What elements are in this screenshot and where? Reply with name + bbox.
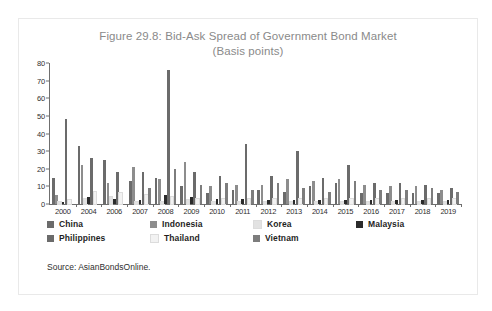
x-axis-tick-label: 2016	[358, 207, 384, 216]
year-group	[333, 63, 359, 204]
bar	[286, 179, 289, 204]
chart-legend: ChinaIndonesiaKoreaMalaysiaPhilippinesTh…	[47, 219, 459, 247]
legend-swatch-icon	[253, 220, 262, 229]
x-axis-labels: 2000200420062007200820092010201120122013…	[50, 207, 461, 216]
y-axis-tick-mark	[46, 115, 49, 116]
bar	[312, 181, 315, 204]
legend-swatch-icon	[150, 221, 157, 228]
bar-series-container	[50, 63, 461, 204]
y-axis-tick-mark	[46, 186, 49, 187]
y-axis-tick-label: 0	[41, 200, 45, 209]
legend-label: Thailand	[164, 233, 200, 243]
y-axis-tick-mark	[46, 98, 49, 99]
y-axis-tick-label: 50	[37, 111, 45, 120]
year-group	[256, 63, 282, 204]
x-axis-tick-label: 2018	[410, 207, 436, 216]
x-axis-tick-mark	[461, 204, 462, 207]
legend-item-korea[interactable]: Korea	[253, 219, 356, 229]
bar	[296, 151, 299, 204]
legend-swatch-icon	[150, 234, 159, 243]
y-axis-tick-mark	[46, 80, 49, 81]
legend-item-indonesia[interactable]: Indonesia	[150, 219, 253, 229]
year-group	[358, 63, 384, 204]
legend-swatch-icon	[47, 221, 54, 228]
legend-label: Vietnam	[265, 233, 299, 243]
legend-swatch-icon	[253, 235, 260, 242]
year-group	[435, 63, 461, 204]
bar	[354, 181, 357, 204]
x-axis-tick-label: 2000	[50, 207, 76, 216]
year-group	[50, 63, 76, 204]
year-group	[281, 63, 307, 204]
chart-title: Figure 29.8: Bid-Ask Spread of Governmen…	[19, 29, 477, 59]
year-group	[101, 63, 127, 204]
y-axis-tick-mark	[46, 168, 49, 169]
x-axis-tick-label: 2011	[230, 207, 256, 216]
x-axis-tick-label: 2017	[384, 207, 410, 216]
y-axis-tick-label: 60	[37, 94, 45, 103]
year-group	[76, 63, 102, 204]
bar	[94, 192, 97, 204]
x-axis-tick-label: 2007	[127, 207, 153, 216]
x-axis-tick-label: 2009	[178, 207, 204, 216]
bar	[200, 185, 203, 204]
bar	[456, 192, 459, 204]
bar	[148, 188, 151, 204]
bar	[302, 188, 305, 204]
y-axis-tick-mark	[46, 151, 49, 152]
bar	[225, 183, 228, 204]
bar	[251, 190, 254, 204]
year-group	[127, 63, 153, 204]
bar	[132, 167, 135, 204]
x-axis-tick-label: 2014	[307, 207, 333, 216]
legend-item-vietnam[interactable]: Vietnam	[253, 233, 356, 243]
legend-row: ChinaIndonesiaKoreaMalaysia	[47, 219, 459, 229]
bar	[68, 200, 71, 204]
plot-area: 01020304050607080	[49, 63, 461, 205]
bar	[245, 144, 248, 204]
y-axis-tick-label: 20	[37, 164, 45, 173]
legend-item-philippines[interactable]: Philippines	[47, 233, 150, 243]
y-axis-tick-label: 70	[37, 76, 45, 85]
x-axis-tick-label: 2013	[281, 207, 307, 216]
bar	[379, 190, 382, 204]
x-axis-tick-label: 2019	[435, 207, 461, 216]
x-axis-tick-label: 2015	[333, 207, 359, 216]
legend-label: Korea	[267, 219, 292, 229]
y-axis-tick-mark	[46, 133, 49, 134]
legend-label: Philippines	[59, 233, 105, 243]
bar	[235, 185, 238, 204]
figure-frame: Figure 29.8: Bid-Ask Spread of Governmen…	[18, 18, 478, 295]
bar	[431, 188, 434, 204]
bar	[261, 185, 264, 204]
bar	[167, 70, 170, 204]
x-axis-tick-label: 2006	[101, 207, 127, 216]
bar	[158, 179, 161, 204]
legend-item-china[interactable]: China	[47, 219, 150, 229]
year-group	[153, 63, 179, 204]
x-axis-tick-label: 2010	[204, 207, 230, 216]
year-group	[204, 63, 230, 204]
legend-label: Malaysia	[368, 219, 404, 229]
bar	[328, 192, 331, 204]
bar	[338, 179, 341, 204]
legend-swatch-icon	[47, 235, 54, 242]
y-axis-tick-mark	[46, 63, 49, 64]
y-axis-tick-label: 30	[37, 147, 45, 156]
bar	[277, 183, 280, 204]
legend-row: PhilippinesThailandVietnam	[47, 233, 459, 243]
legend-item-malaysia[interactable]: Malaysia	[356, 219, 459, 229]
y-axis-tick-label: 40	[37, 129, 45, 138]
source-note: Source: AsianBondsOnline.	[47, 262, 150, 272]
y-axis-tick-mark	[46, 204, 49, 205]
year-group	[230, 63, 256, 204]
y-axis-tick-label: 10	[37, 182, 45, 191]
legend-swatch-icon	[356, 221, 363, 228]
legend-label: Indonesia	[162, 219, 203, 229]
legend-label: China	[59, 219, 83, 229]
legend-item-thailand[interactable]: Thailand	[150, 233, 253, 243]
bar	[184, 162, 187, 204]
bar	[174, 169, 177, 204]
chart-title-line2: (Basis points)	[19, 44, 477, 59]
x-axis-tick-label: 2008	[153, 207, 179, 216]
